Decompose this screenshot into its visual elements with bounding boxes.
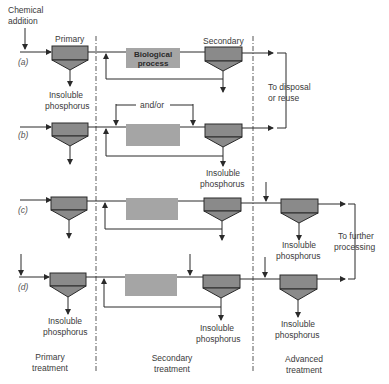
row-a: Primary Secondary (a) Insoluble phosphor…	[18, 28, 311, 128]
chemical-addition-label: Chemical	[8, 5, 44, 15]
biological-process-box	[125, 274, 177, 296]
row-label-d: (d)	[18, 282, 29, 292]
chemical-addition-label-2: addition	[8, 16, 38, 26]
primary-tank	[52, 46, 88, 60]
stage-label-primary-2: treatment	[32, 363, 69, 373]
insoluble-label: Insoluble	[281, 319, 315, 329]
secondary-tank	[204, 198, 241, 211]
insoluble-label: Insoluble	[206, 168, 240, 178]
phosphorus-label: phosphorus	[45, 101, 89, 111]
secondary-tank-hopper	[203, 288, 240, 298]
phosphorus-label: phosphorus	[200, 179, 244, 189]
insoluble-label: Insoluble	[282, 240, 316, 250]
biological-process-box	[126, 198, 178, 220]
row-label-c: (c)	[18, 205, 28, 215]
advanced-tank	[281, 199, 318, 213]
primary-tank-hopper	[50, 286, 86, 297]
secondary-tank-hopper	[205, 61, 242, 71]
advanced-tank-hopper	[281, 213, 318, 223]
bio-label: Biological	[134, 50, 172, 59]
advanced-tank	[280, 275, 317, 289]
process-diagram: Chemical addition Primary Secondary (a) …	[0, 0, 389, 384]
stage-label-advanced-2: treatment	[286, 365, 323, 375]
stage-label-primary: Primary	[35, 352, 65, 362]
primary-tank-hopper	[51, 210, 87, 220]
primary-tank-hopper	[52, 60, 88, 70]
to-disposal-label-2: or reuse	[268, 93, 299, 103]
to-further-label: To further	[338, 231, 374, 241]
row-d: (d) Insoluble phosphorus Insoluble phosp…	[18, 254, 345, 344]
biological-process-box	[126, 124, 180, 146]
secondary-tank	[205, 124, 242, 137]
primary-tank-hopper	[52, 136, 88, 146]
primary-tank	[52, 123, 88, 136]
bio-label-2: process	[138, 59, 169, 68]
advanced-tank-hopper	[280, 289, 317, 300]
phosphorus-label: phosphorus	[276, 251, 320, 261]
primary-label: Primary	[55, 34, 85, 44]
secondary-tank-hopper	[204, 211, 241, 221]
stage-label-secondary-2: treatment	[154, 364, 191, 374]
insoluble-label: Insoluble	[49, 90, 83, 100]
secondary-tank	[205, 47, 242, 61]
row-label-a: (a)	[18, 57, 29, 67]
primary-tank	[50, 273, 86, 286]
row-b: (b) and/or Insoluble phosphorus	[18, 100, 273, 189]
stage-label-secondary: Secondary	[152, 353, 193, 363]
row-c: (c) Insoluble phosphorus To further proc…	[18, 182, 375, 279]
to-disposal-label: To disposal	[268, 82, 311, 92]
to-further-label-2: processing	[334, 242, 375, 252]
phosphorus-label: phosphorus	[196, 334, 240, 344]
row-label-b: (b)	[18, 130, 29, 140]
secondary-tank	[203, 275, 240, 288]
phosphorus-label: phosphorus	[275, 330, 319, 340]
insoluble-label: Insoluble	[200, 323, 234, 333]
phosphorus-label: phosphorus	[43, 327, 87, 337]
insoluble-label: Insoluble	[48, 316, 82, 326]
stage-label-advanced: Advanced	[285, 354, 323, 364]
secondary-tank-hopper	[205, 137, 242, 147]
primary-tank	[51, 197, 87, 210]
secondary-label: Secondary	[203, 36, 244, 46]
and-or-label: and/or	[140, 100, 164, 110]
